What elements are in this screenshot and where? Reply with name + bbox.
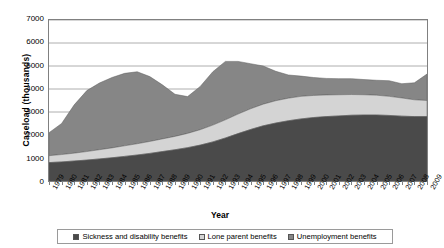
y-axis-tick-label: 2000: [10, 131, 44, 139]
legend-swatch-icon: [199, 234, 205, 240]
legend-label: Unemployment benefits: [297, 233, 377, 241]
plot-svg: [49, 20, 427, 181]
legend-swatch-icon: [288, 234, 294, 240]
legend-label: Lone parent benefits: [208, 233, 277, 241]
x-axis-tick-mark: [87, 182, 88, 185]
y-axis-tick-label: 6000: [10, 38, 44, 46]
x-axis-tick-label: 2009: [429, 173, 443, 190]
x-axis-tick-mark: [339, 182, 340, 185]
x-axis-title: Year: [0, 210, 440, 220]
x-axis-tick-mark: [150, 182, 151, 185]
y-axis-tick-label: 7000: [10, 15, 44, 23]
x-axis-tick-labels: 1979198019811982198319841985198619871988…: [0, 182, 440, 228]
chart-legend: Sickness and disability benefitsLone par…: [57, 229, 393, 244]
legend-item[interactable]: Sickness and disability benefits: [73, 233, 187, 241]
x-axis-tick-mark: [314, 182, 315, 185]
legend-item[interactable]: Unemployment benefits: [288, 233, 377, 241]
x-axis-tick-mark: [377, 182, 378, 185]
x-axis-tick-mark: [62, 182, 63, 185]
area-series-group: [49, 61, 427, 181]
legend-item[interactable]: Lone parent benefits: [199, 233, 277, 241]
legend-swatch-icon: [73, 234, 79, 240]
y-axis-tick-label: 3000: [10, 108, 44, 116]
plot-area: [48, 19, 428, 182]
x-axis-tick-mark: [276, 182, 277, 185]
legend-label: Sickness and disability benefits: [82, 233, 187, 241]
y-axis-tick-label: 5000: [10, 62, 44, 70]
x-axis-tick-mark: [402, 182, 403, 185]
x-axis-tick-mark: [213, 182, 214, 185]
y-axis-tick-label: 1000: [10, 155, 44, 163]
y-axis-tick-label: 4000: [10, 85, 44, 93]
x-axis-tick-mark: [188, 182, 189, 185]
x-axis-tick-mark: [251, 182, 252, 185]
x-axis-tick-mark: [125, 182, 126, 185]
